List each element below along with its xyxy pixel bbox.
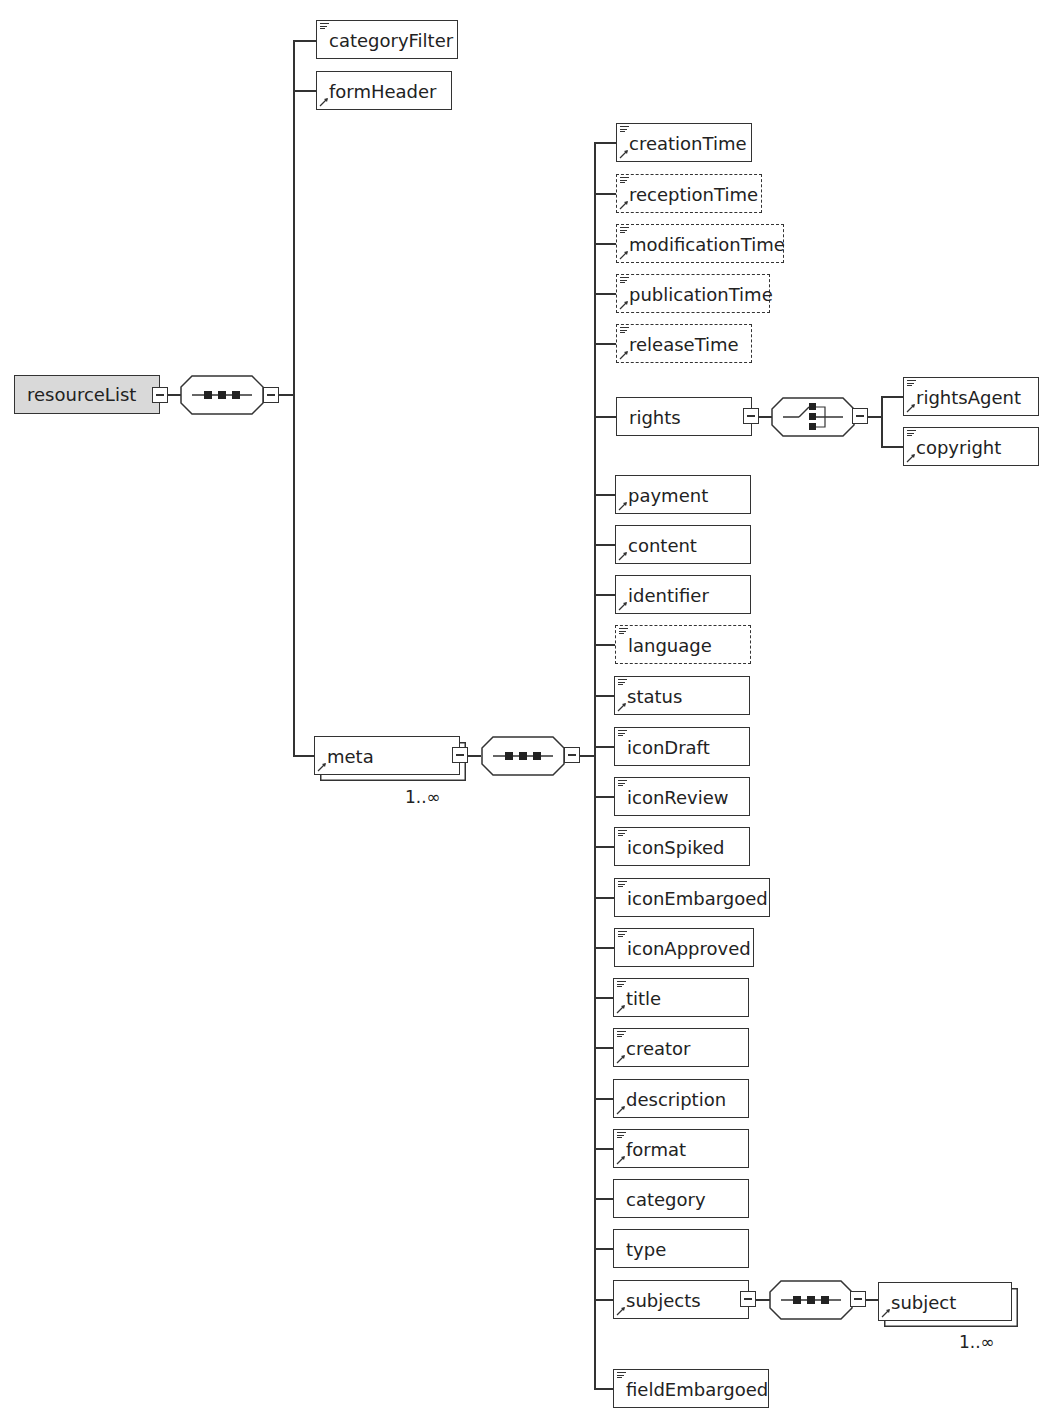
element-type[interactable]: type xyxy=(613,1229,749,1268)
element-status[interactable]: status xyxy=(614,676,750,715)
element-language[interactable]: language xyxy=(615,625,751,664)
element-label: rightsAgent xyxy=(916,387,1021,408)
element-formHeader[interactable]: formHeader xyxy=(316,71,452,110)
element-payment[interactable]: payment xyxy=(615,475,751,514)
reference-arrow-icon xyxy=(616,1105,626,1115)
element-label: meta xyxy=(327,746,374,767)
element-label: copyright xyxy=(916,437,1001,458)
element-publicationTime[interactable]: publicationTime xyxy=(616,274,770,313)
element-label: description xyxy=(626,1089,726,1110)
connector xyxy=(594,1098,613,1100)
element-subjects[interactable]: subjects xyxy=(613,1280,749,1319)
element-category[interactable]: category xyxy=(613,1179,749,1218)
collapse-toggle-meta[interactable] xyxy=(452,747,468,763)
documentation-icon xyxy=(620,327,629,333)
element-label: rights xyxy=(629,407,681,428)
element-label: identifier xyxy=(628,585,709,606)
element-copyright[interactable]: copyright xyxy=(903,427,1039,466)
element-categoryFilter[interactable]: categoryFilter xyxy=(316,20,458,59)
connector xyxy=(594,947,614,949)
element-rights[interactable]: rights xyxy=(616,397,752,436)
collapse-toggle-subjects-sequence[interactable] xyxy=(850,1291,866,1307)
element-label: language xyxy=(628,635,712,656)
collapse-toggle-subjects[interactable] xyxy=(740,1291,756,1307)
element-modificationTime[interactable]: modificationTime xyxy=(616,224,784,263)
reference-arrow-icon xyxy=(906,453,916,463)
documentation-icon xyxy=(618,830,627,836)
element-identifier[interactable]: identifier xyxy=(615,575,751,614)
collapse-toggle-resourceList[interactable] xyxy=(152,387,168,403)
choice-compositor-icon xyxy=(771,397,855,437)
element-label: payment xyxy=(628,485,708,506)
connector xyxy=(594,293,616,295)
documentation-icon xyxy=(617,1031,626,1037)
element-label: iconDraft xyxy=(627,737,710,758)
connector xyxy=(594,343,616,345)
element-label: creator xyxy=(626,1038,690,1059)
element-iconReview[interactable]: iconReview xyxy=(614,777,750,816)
element-content[interactable]: content xyxy=(615,525,751,564)
reference-arrow-icon xyxy=(616,1054,626,1064)
element-label: subjects xyxy=(626,1290,701,1311)
element-title[interactable]: title xyxy=(613,978,749,1017)
connector xyxy=(594,594,615,596)
reference-arrow-icon xyxy=(319,97,329,107)
connector xyxy=(594,796,614,798)
reference-arrow-icon xyxy=(619,250,629,260)
connector xyxy=(594,416,616,418)
reference-arrow-icon xyxy=(619,300,629,310)
connector xyxy=(594,1299,613,1301)
documentation-icon xyxy=(620,227,629,233)
reference-arrow-icon xyxy=(881,1308,891,1318)
sequence-compositor-icon xyxy=(481,736,565,776)
documentation-icon xyxy=(618,679,627,685)
documentation-icon xyxy=(618,931,627,937)
documentation-icon xyxy=(907,380,916,386)
element-receptionTime[interactable]: receptionTime xyxy=(616,174,762,213)
connector xyxy=(594,846,614,848)
connector xyxy=(594,1388,613,1390)
element-releaseTime[interactable]: releaseTime xyxy=(616,324,752,363)
element-label: fieldEmbargoed xyxy=(626,1379,768,1400)
reference-arrow-icon xyxy=(618,501,628,511)
element-iconSpiked[interactable]: iconSpiked xyxy=(614,827,750,866)
connector xyxy=(594,1047,613,1049)
documentation-icon xyxy=(620,277,629,283)
element-resourceList[interactable]: resourceList xyxy=(14,375,160,414)
connector xyxy=(594,644,615,646)
collapse-toggle-root-sequence[interactable] xyxy=(263,387,279,403)
element-label: status xyxy=(627,686,682,707)
documentation-icon xyxy=(618,780,627,786)
element-label: iconReview xyxy=(627,787,729,808)
connector xyxy=(594,746,614,748)
collapse-toggle-meta-sequence[interactable] xyxy=(564,747,580,763)
element-label: receptionTime xyxy=(629,184,758,205)
trunk-line xyxy=(293,40,295,756)
element-fieldEmbargoed[interactable]: fieldEmbargoed xyxy=(613,1369,769,1408)
element-label: title xyxy=(626,988,661,1009)
occurrence-label: 1..∞ xyxy=(405,787,441,807)
connector xyxy=(594,544,615,546)
reference-arrow-icon xyxy=(619,149,629,159)
element-label: category xyxy=(626,1189,706,1210)
element-subject[interactable]: subject xyxy=(878,1282,1012,1321)
element-creationTime[interactable]: creationTime xyxy=(616,123,752,162)
connector xyxy=(594,193,616,195)
collapse-toggle-rights-choice[interactable] xyxy=(852,408,868,424)
element-rightsAgent[interactable]: rightsAgent xyxy=(903,377,1039,416)
element-format[interactable]: format xyxy=(613,1129,749,1168)
connector xyxy=(594,1148,613,1150)
element-iconEmbargoed[interactable]: iconEmbargoed xyxy=(614,878,770,917)
collapse-toggle-rights[interactable] xyxy=(743,408,759,424)
documentation-icon xyxy=(617,981,626,987)
element-iconDraft[interactable]: iconDraft xyxy=(614,727,750,766)
element-label: subject xyxy=(891,1292,956,1313)
element-creator[interactable]: creator xyxy=(613,1028,749,1067)
element-description[interactable]: description xyxy=(613,1079,749,1118)
documentation-icon xyxy=(907,430,916,436)
element-label: publicationTime xyxy=(629,284,773,305)
documentation-icon xyxy=(619,628,628,634)
element-meta[interactable]: meta xyxy=(314,736,460,775)
element-iconApproved[interactable]: iconApproved xyxy=(614,928,754,967)
element-label: categoryFilter xyxy=(329,30,453,51)
